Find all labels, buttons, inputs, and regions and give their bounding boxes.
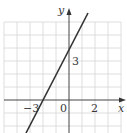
data-line: [26, 13, 88, 133]
line-graph: x y −3 0 2 3: [0, 0, 127, 133]
x-tick-0: 0: [60, 102, 67, 115]
x-tick-neg3: −3: [23, 102, 39, 115]
x-axis-label: x: [118, 102, 125, 115]
y-axis-arrow-icon: [67, 8, 72, 15]
x-tick-2: 2: [91, 102, 98, 115]
grid: [4, 22, 121, 133]
y-axis-label: y: [57, 4, 65, 17]
y-tick-3: 3: [72, 55, 79, 68]
